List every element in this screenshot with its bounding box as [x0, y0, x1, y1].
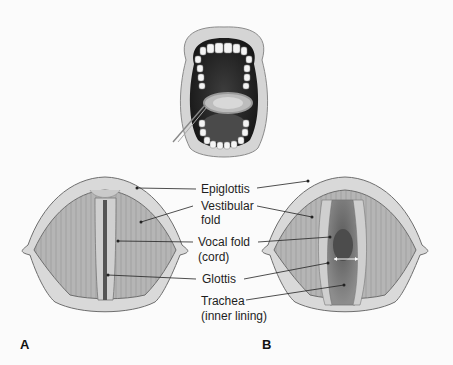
label-trachea-line1: Trachea	[201, 294, 245, 308]
label-epiglottis: Epiglottis	[201, 182, 250, 196]
panel-a-larynx-closed	[22, 177, 188, 312]
panel-b-larynx-open	[262, 177, 428, 312]
label-vestibular-fold-line2: fold	[201, 213, 220, 227]
label-vocal-fold-line2: (cord)	[198, 250, 229, 264]
label-vocal-fold-line1: Vocal fold	[198, 235, 250, 249]
panel-label-b: B	[262, 337, 271, 352]
panel-label-a: A	[20, 337, 29, 352]
label-trachea-line2: (inner lining)	[201, 309, 267, 323]
mouth-illustration	[173, 27, 268, 157]
label-glottis: Glottis	[202, 272, 236, 286]
label-vestibular-fold-line1: Vestibular	[201, 199, 254, 213]
glottis-closed	[103, 200, 107, 300]
